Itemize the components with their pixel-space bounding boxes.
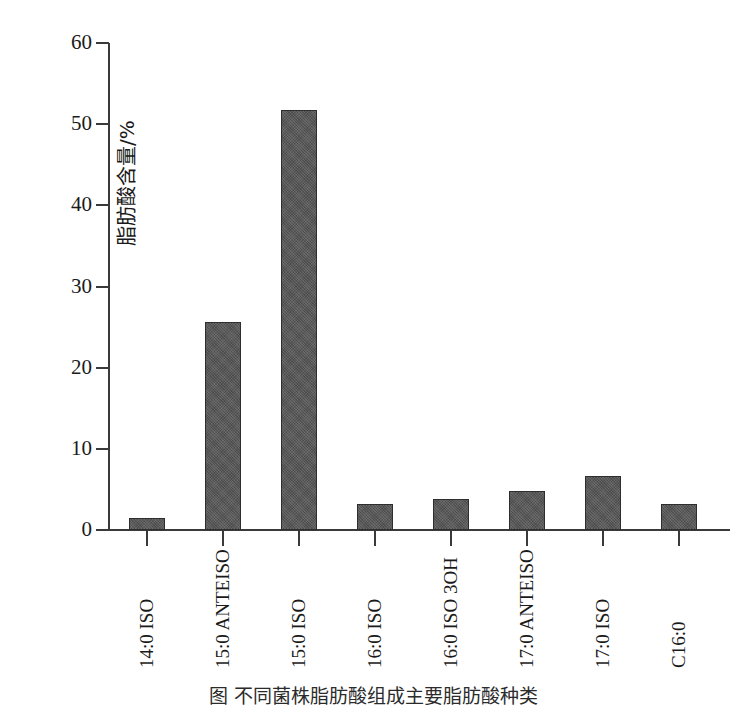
x-tick-label: 16:0 ISO — [364, 599, 386, 668]
y-tick-mark — [96, 367, 109, 369]
bar — [585, 476, 621, 530]
y-tick-mark — [96, 204, 109, 206]
y-tick-label: 0 — [48, 519, 92, 540]
x-tick-mark — [298, 531, 300, 546]
y-tick-mark — [96, 529, 109, 531]
y-tick-label: 50 — [48, 113, 92, 134]
bar — [129, 518, 165, 530]
x-tick-mark — [146, 531, 148, 546]
x-tick-label: 14:0 ISO — [136, 599, 158, 668]
y-tick-label-wrap: 40 — [30, 194, 92, 215]
x-tick-mark — [374, 531, 376, 546]
y-axis-title: 脂肪酸含量/% — [111, 73, 137, 293]
x-axis-line — [108, 529, 730, 531]
x-tick-mark — [222, 531, 224, 546]
figure-caption: 图 不同菌株脂肪酸组成主要脂肪酸种类 — [0, 684, 747, 708]
y-tick-label-wrap: 0 — [30, 519, 92, 540]
x-tick-label: 15:0 ISO — [288, 599, 310, 668]
y-tick-mark — [96, 448, 109, 450]
x-tick-label: 17:0 ISO — [592, 599, 614, 668]
y-tick-mark — [96, 123, 109, 125]
y-tick-label: 30 — [48, 276, 92, 297]
y-tick-label-wrap: 50 — [30, 113, 92, 134]
x-tick-mark — [450, 531, 452, 546]
y-tick-label-wrap: 60 — [30, 32, 92, 53]
bar — [433, 499, 469, 530]
x-tick-mark — [678, 531, 680, 546]
x-tick-label: 15:0 ANTEISO — [212, 549, 234, 668]
x-tick-mark — [602, 531, 604, 546]
y-tick-label: 10 — [48, 438, 92, 459]
x-tick-mark — [526, 531, 528, 546]
x-tick-label: 16:0 ISO 3OH — [440, 557, 462, 668]
y-tick-mark — [96, 286, 109, 288]
y-tick-label-wrap: 20 — [30, 357, 92, 378]
bar — [281, 110, 317, 530]
y-tick-label-wrap: 30 — [30, 276, 92, 297]
y-tick-label: 40 — [48, 194, 92, 215]
y-tick-label-wrap: 10 — [30, 438, 92, 459]
y-tick-label: 20 — [48, 357, 92, 378]
x-tick-label: C16:0 — [668, 622, 690, 668]
bar — [661, 504, 697, 530]
bar — [205, 322, 241, 530]
y-tick-mark — [96, 42, 109, 44]
x-tick-label: 17:0 ANTEISO — [516, 549, 538, 668]
y-tick-label: 60 — [48, 32, 92, 53]
bar — [509, 491, 545, 530]
bar — [357, 504, 393, 530]
